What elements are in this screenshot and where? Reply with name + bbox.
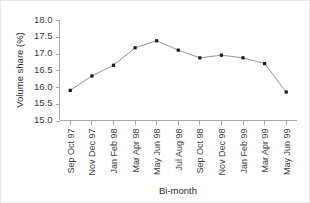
data-point [263, 62, 266, 65]
x-tick-label: Jan Feb 99 [239, 129, 249, 174]
x-tick-label: Jan Feb 98 [109, 129, 119, 174]
x-axis-title: Bi-month [159, 185, 197, 196]
x-tick-label: May Jun 99 [282, 129, 292, 176]
y-axis-title: Volume share (%) [14, 32, 25, 108]
data-point [90, 74, 93, 77]
y-axis-group: 15.015.516.016.517.017.518.0 Volume shar… [14, 14, 60, 126]
data-point [112, 64, 115, 67]
y-tick-label: 15.5 [34, 97, 53, 108]
y-tick-label: 15.0 [34, 114, 53, 125]
data-series-group [69, 39, 288, 93]
data-point [241, 56, 244, 59]
x-tick-label: Mar Apr 98 [131, 129, 141, 173]
series-markers [69, 39, 288, 93]
x-tick-label: Sep Oct 97 [66, 129, 76, 174]
x-tick-labels: Sep Oct 97Nov Dec 97Jan Feb 98Mar Apr 98… [66, 129, 292, 176]
x-tick-label: May Jun 98 [152, 129, 162, 176]
data-point [177, 49, 180, 52]
chart-figure: 15.015.516.016.517.017.518.0 Volume shar… [0, 0, 310, 203]
data-point [285, 90, 288, 93]
x-tick-marks [70, 121, 286, 125]
data-point [133, 46, 136, 49]
x-tick-label: Jul Aug 98 [174, 129, 184, 171]
y-tick-label: 18.0 [34, 14, 53, 25]
y-tick-label: 17.5 [34, 30, 53, 41]
x-tick-label: Sep Oct 98 [195, 129, 205, 174]
data-point [198, 56, 201, 59]
y-tick-label: 16.5 [34, 64, 53, 75]
line-chart-canvas: 15.015.516.016.517.017.518.0 Volume shar… [1, 1, 310, 203]
y-tick-label: 16.0 [34, 81, 53, 92]
data-point [220, 54, 223, 57]
series-line [70, 41, 286, 92]
x-tick-label: Nov Dec 98 [217, 129, 227, 176]
y-tick-label: 17.0 [34, 47, 53, 58]
y-tick-marks [56, 21, 60, 122]
x-tick-label: Mar Apr 99 [260, 129, 270, 173]
y-tick-labels: 15.015.516.016.517.017.518.0 [34, 14, 53, 126]
data-point [69, 89, 72, 92]
x-tick-label: Nov Dec 97 [87, 129, 97, 176]
data-point [155, 39, 158, 42]
x-axis-group: Sep Oct 97Nov Dec 97Jan Feb 98Mar Apr 98… [60, 121, 298, 197]
